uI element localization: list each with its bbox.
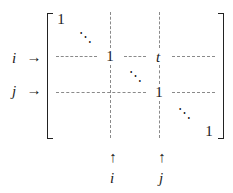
row-label-i: i [12, 51, 16, 66]
row-i-dash-middle [124, 56, 146, 57]
left-bracket [47, 13, 53, 139]
diagonal-dots-1: ⋱ [79, 30, 92, 43]
row-i-dash-right [172, 56, 215, 57]
entry-pivot-j: 1 [155, 85, 163, 100]
row-i-dash-left [56, 56, 97, 57]
diagonal-dots-2: ⋱ [129, 69, 142, 82]
col-j-dash-bottom [159, 101, 160, 138]
column-label-j: j [159, 171, 163, 186]
entry-top-left: 1 [57, 12, 65, 27]
right-bracket [218, 13, 224, 139]
col-j-dash-top [159, 12, 160, 48]
entry-pivot-i: 1 [106, 49, 114, 64]
up-arrow-icon: ↑ [109, 150, 117, 165]
right-arrow-icon: → [27, 83, 42, 98]
entry-bottom-right: 1 [205, 124, 213, 139]
up-arrow-icon: ↑ [158, 150, 166, 165]
right-arrow-icon: → [27, 50, 42, 65]
col-j-dash-mid [159, 65, 160, 84]
row-j-dash-right [172, 92, 215, 93]
col-i-dash-top [110, 12, 111, 48]
col-i-dash-bottom [110, 65, 111, 138]
row-j-dash-left [56, 92, 146, 93]
column-label-i: i [110, 171, 114, 186]
row-label-j: j [12, 84, 16, 99]
entry-t: t [156, 50, 160, 65]
diagonal-dots-3: ⋱ [178, 106, 191, 119]
